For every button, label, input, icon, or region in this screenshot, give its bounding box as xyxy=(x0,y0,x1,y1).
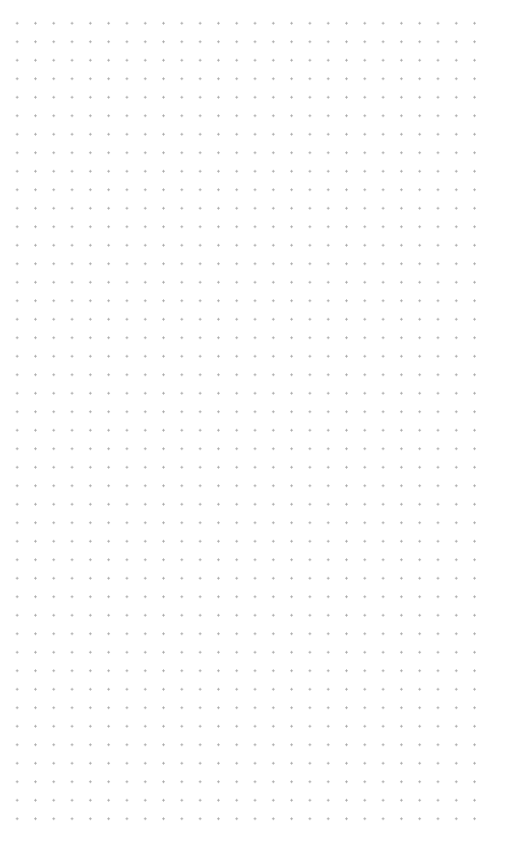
dot-grid-background xyxy=(8,14,484,828)
blank-canvas[interactable] xyxy=(0,0,513,865)
